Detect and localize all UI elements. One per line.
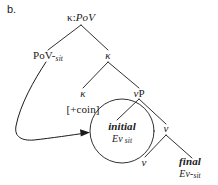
node-root-pov: PoV [76, 11, 95, 23]
node-root-kappa-pov: κ:PoV [67, 12, 95, 24]
node-pov-sit-base: PoV- [33, 49, 56, 61]
movement-arrow [16, 62, 90, 140]
arrowhead [80, 129, 90, 136]
branch-root-to-kappa [81, 25, 108, 50]
node-initial-label: initial [108, 120, 136, 133]
node-kappa-mid: κ [105, 50, 110, 62]
node-v-leaf: v [142, 157, 147, 169]
node-final-label: final [179, 155, 201, 168]
node-initial-sit: sit [125, 136, 132, 145]
node-vp: vP [133, 88, 144, 100]
node-vp-p: P [138, 87, 144, 99]
node-coin-feature: [+coin] [66, 104, 99, 116]
branch-v-to-v-leaf [145, 135, 166, 157]
node-pov-sit: PoV-sit [33, 50, 63, 62]
node-final-event-sit: Ev-sit [179, 168, 201, 180]
node-v-mid: v [164, 123, 169, 135]
branch-root-to-pov-sit [48, 25, 81, 50]
node-kappa-leaf: κ [80, 88, 85, 100]
node-initial-ev: Ev [112, 133, 123, 144]
branch-kappa-to-kappa-leaf [83, 62, 108, 88]
tree-diagram-figure: b. κ:PoV [0, 0, 218, 185]
node-final-sit: sit [193, 171, 200, 180]
branch-kappa-to-vp [108, 62, 139, 88]
node-final-event: final Ev-sit [179, 155, 201, 180]
node-final-ev: Ev- [179, 168, 193, 179]
node-initial-event-sit: Evsit [108, 133, 136, 145]
node-initial-event: initial Evsit [108, 120, 136, 145]
node-pov-sit-subscript: sit [56, 54, 63, 63]
